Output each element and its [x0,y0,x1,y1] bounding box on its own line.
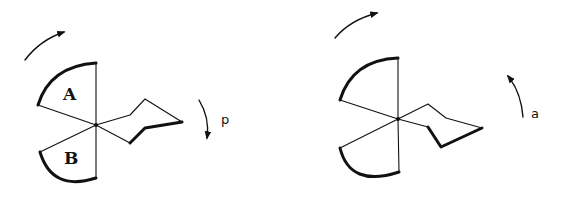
rotation-label-a: a [531,106,539,121]
left-figure [25,32,208,182]
sector-label-a: A [62,84,77,104]
sector-lower [340,119,399,177]
sector-upper [340,58,398,119]
rotation-arrow-icon [25,32,64,60]
stereochemistry-diagram: A B p a [0,0,565,202]
sector-label-b: B [64,148,78,168]
rotation-arrow-a-icon [508,76,523,117]
chair-ring [96,99,182,143]
rotation-arrow-p-icon [199,100,208,138]
chair-ring [398,104,482,147]
right-figure [335,13,523,177]
rotation-label-p: p [221,112,229,127]
rotation-arrow-icon [335,13,377,38]
